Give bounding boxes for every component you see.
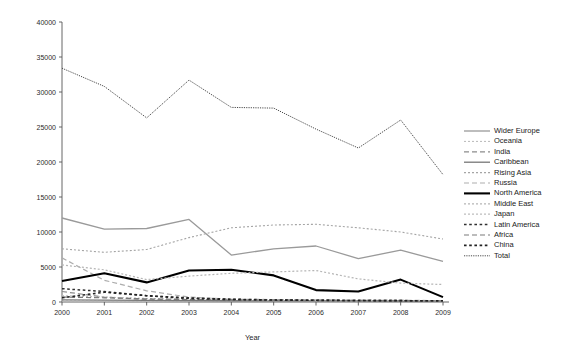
legend-label: Middle East: [494, 199, 534, 208]
x-tick-label: 2009: [435, 309, 451, 316]
legend-label: Wider Europe: [494, 126, 540, 135]
series-line: [62, 68, 443, 174]
legend-item[interactable]: Latin America: [464, 220, 540, 229]
y-tick-label: 0: [52, 299, 56, 306]
axis-titles: Year: [245, 333, 261, 342]
series-line: [62, 265, 443, 285]
x-tick-label: 2007: [351, 309, 367, 316]
legend-item[interactable]: Middle East: [464, 199, 534, 208]
legend-item[interactable]: India: [464, 147, 511, 156]
legend-item[interactable]: Africa: [464, 230, 514, 239]
y-tick-label: 5000: [40, 264, 56, 271]
legend-item[interactable]: Total: [464, 251, 510, 260]
legend-label: Japan: [494, 209, 514, 218]
y-tick-label: 25000: [37, 124, 57, 131]
legend-label: Caribbean: [494, 157, 529, 166]
legend-item[interactable]: North America: [464, 188, 542, 197]
legend-item[interactable]: China: [464, 240, 514, 249]
x-tick-label: 2002: [139, 309, 155, 316]
x-tick-label: 2001: [97, 309, 113, 316]
legend-label: Africa: [494, 230, 514, 239]
x-tick-label: 2000: [54, 309, 70, 316]
x-tick-label: 2005: [266, 309, 282, 316]
legend-item[interactable]: Wider Europe: [464, 126, 540, 135]
chart-legend: Wider EuropeOceaniaIndiaCaribbeanRising …: [464, 126, 542, 260]
x-tick-label: 2006: [308, 309, 324, 316]
y-tick-label: 30000: [37, 89, 57, 96]
legend-item[interactable]: Caribbean: [464, 157, 529, 166]
y-tick-label: 15000: [37, 194, 57, 201]
x-tick-label: 2004: [224, 309, 240, 316]
x-tick-label: 2008: [393, 309, 409, 316]
legend-label: Oceania: [494, 136, 523, 145]
x-axis-title: Year: [245, 333, 261, 342]
chart-canvas: 0500010000150002000025000300003500040000…: [0, 0, 567, 364]
x-tick-label: 2003: [181, 309, 197, 316]
y-tick-label: 35000: [37, 54, 57, 61]
legend-label: Rising Asia: [494, 168, 532, 177]
legend-item[interactable]: Russia: [464, 178, 518, 187]
x-axis: 2000200120022003200420052006200720082009: [54, 302, 451, 316]
series-line: [62, 289, 443, 301]
series-lines: [62, 68, 443, 301]
legend-label: India: [494, 147, 511, 156]
legend-item[interactable]: Japan: [464, 209, 514, 218]
line-chart: 0500010000150002000025000300003500040000…: [0, 0, 567, 364]
legend-label: North America: [494, 188, 542, 197]
y-axis: 0500010000150002000025000300003500040000: [37, 19, 62, 306]
y-tick-label: 20000: [37, 159, 57, 166]
legend-item[interactable]: Rising Asia: [464, 168, 532, 177]
legend-label: China: [494, 240, 514, 249]
series-line: [62, 292, 443, 301]
series-line: [62, 218, 443, 261]
legend-label: Latin America: [494, 220, 540, 229]
legend-item[interactable]: Oceania: [464, 136, 523, 145]
y-tick-label: 10000: [37, 229, 57, 236]
y-tick-label: 40000: [37, 19, 57, 26]
legend-label: Russia: [494, 178, 518, 187]
legend-label: Total: [494, 251, 510, 260]
